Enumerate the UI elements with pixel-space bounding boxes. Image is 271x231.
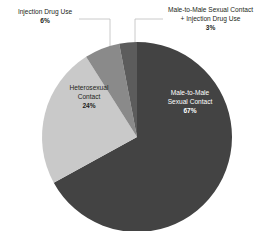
slice-label-mmsc-title-line2: Sexual Contact <box>148 98 232 107</box>
slice-label-mmsc-title-line1: Male-to-Male <box>148 89 232 98</box>
callout-injection-drug-use-percent: 6% <box>2 17 88 26</box>
pie-slices <box>42 42 232 231</box>
slice-label-heterosexual-title-line2: Contact <box>52 93 126 102</box>
slice-label-mmsc-percent: 67% <box>148 107 232 116</box>
callout-injection-drug-use-title: Injection Drug Use <box>2 8 88 17</box>
pie-chart: Injection Drug Use 6% Male-to-Male Sexua… <box>0 0 271 231</box>
callout-mmsc-plus-idu-title-line2: + Injection Drug Use <box>152 15 269 24</box>
slice-label-heterosexual-percent: 24% <box>52 102 126 111</box>
slice-label-heterosexual-title-line1: Heterosexual <box>52 84 126 93</box>
callout-mmsc-plus-idu-percent: 3% <box>152 24 269 33</box>
slice-label-male-to-male-sexual-contact: Male-to-Male Sexual Contact 67% <box>148 89 232 116</box>
callout-injection-drug-use: Injection Drug Use 6% <box>2 8 88 26</box>
callout-mmsc-plus-injection-drug-use: Male-to-Male Sexual Contact + Injection … <box>152 6 269 33</box>
callout-mmsc-plus-idu-title-line1: Male-to-Male Sexual Contact <box>152 6 269 15</box>
slice-label-heterosexual-contact: Heterosexual Contact 24% <box>52 84 126 111</box>
